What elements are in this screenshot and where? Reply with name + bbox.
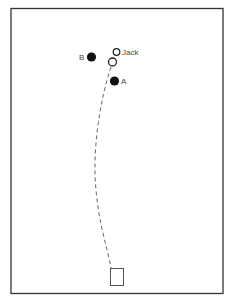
ball-a-label: A [121,77,127,86]
diagram-canvas: Jack A B [0,0,230,303]
jack-label: Jack [122,48,139,57]
ball-b-label: B [79,53,84,62]
jack-marker [113,49,120,56]
starting-box [111,269,124,286]
ball-a-marker [110,76,119,85]
ball-b-marker [87,52,96,61]
trajectory-path [95,67,111,268]
open-ball-marker [109,58,117,66]
